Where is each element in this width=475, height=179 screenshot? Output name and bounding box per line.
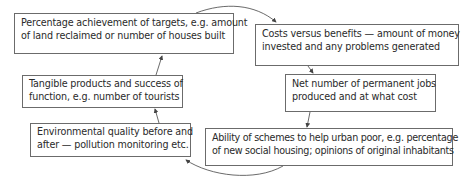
box-tangible-line-1: Tangible products and success of xyxy=(29,78,176,91)
box-urban-poor: Ability of schemes to help urban poor, e… xyxy=(205,128,453,166)
arrow-tangible-to-targets xyxy=(156,56,162,75)
arrow-jobs-to-urban-poor xyxy=(307,112,310,127)
box-costs-line-1: Costs versus benefits — amount of money xyxy=(262,28,452,41)
box-environment-line-2: after — pollution monitoring etc. xyxy=(37,139,184,152)
box-urban-poor-line-2: of new social housing; opinions of origi… xyxy=(212,145,446,158)
box-costs-line-2: invested and any problems generated xyxy=(262,41,452,54)
box-tangible: Tangible products and success of functio… xyxy=(22,75,183,108)
box-jobs-line-1: Net number of permanent jobs xyxy=(292,78,429,91)
box-jobs: Net number of permanent jobs produced an… xyxy=(285,74,436,112)
box-targets-line-1: Percentage achievement of targets, e.g. … xyxy=(21,17,227,30)
box-urban-poor-line-1: Ability of schemes to help urban poor, e… xyxy=(212,132,446,145)
box-targets-line-2: of land reclaimed or number of houses bu… xyxy=(21,30,227,43)
arrow-costs-to-jobs xyxy=(308,66,313,73)
box-costs: Costs versus benefits — amount of money … xyxy=(255,24,459,66)
box-jobs-line-2: produced and at what cost xyxy=(292,91,429,104)
box-environment-line-1: Environmental quality before and xyxy=(37,126,184,139)
box-environment: Environmental quality before and after —… xyxy=(30,123,191,157)
box-targets: Percentage achievement of targets, e.g. … xyxy=(14,13,234,54)
box-tangible-line-2: function, e.g. number of tourists xyxy=(29,91,176,104)
arrow-environment-to-tangible xyxy=(155,109,159,123)
